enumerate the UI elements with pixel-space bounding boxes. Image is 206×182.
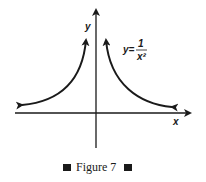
x-axis-label: x	[172, 116, 179, 127]
caption-square-right-icon	[124, 164, 132, 171]
equation-denominator: x²	[136, 51, 147, 62]
y-axis-label: y	[84, 21, 91, 32]
equation-lhs: y=	[122, 44, 135, 55]
caption-square-left-icon	[63, 164, 71, 171]
figure-caption: Figure 7	[76, 160, 116, 174]
graph-figure: y x y= 1 x² Figure 7	[0, 0, 206, 182]
equation-numerator: 1	[138, 38, 144, 49]
curve-left-branch	[22, 40, 86, 105]
